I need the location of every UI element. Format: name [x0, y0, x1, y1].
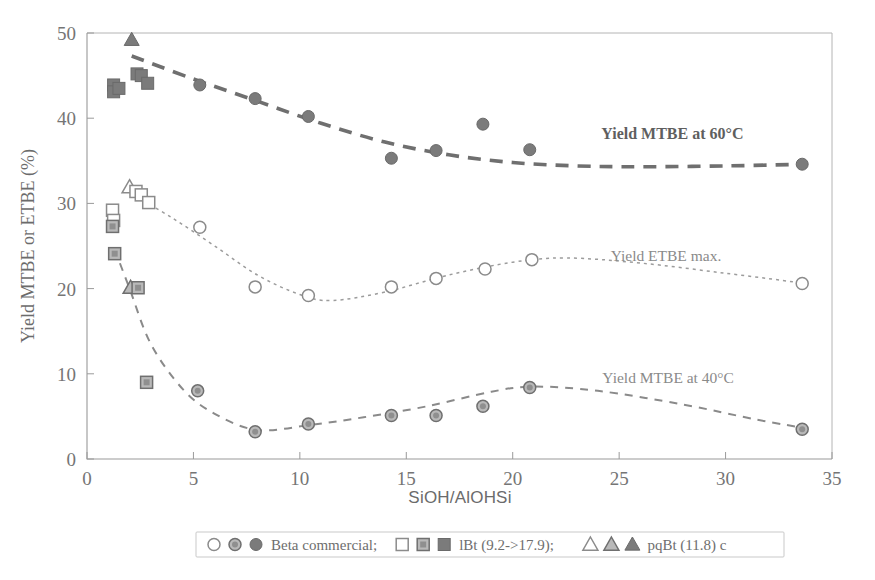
point-etbe-max	[194, 221, 206, 233]
legend-entry-pqbt: pqBt (11.8) c	[647, 537, 726, 554]
point-mtbe-40	[477, 400, 489, 412]
point-etbe-max	[249, 281, 261, 293]
point-mtbe-60	[194, 79, 206, 91]
point-mtbe-40	[107, 220, 119, 232]
point-mtbe-60	[385, 152, 397, 164]
y-tick-label: 0	[67, 449, 77, 470]
point-mtbe-60	[430, 145, 442, 157]
y-tick-label: 30	[57, 193, 76, 214]
point-mtbe-40	[109, 248, 121, 260]
legend-marker-square-open	[396, 539, 408, 551]
chart-svg: 0510152025303501020304050 Yield MTBE at …	[0, 0, 875, 580]
point-mtbe-40	[385, 410, 397, 422]
x-tick-label: 30	[716, 468, 735, 489]
chart-legend: Beta commercial;lBt (9.2->17.9);pqBt (11…	[196, 532, 784, 557]
trend-mtbe-40	[115, 249, 807, 430]
x-tick-label: 25	[610, 468, 629, 489]
point-mtbe-40	[192, 385, 204, 397]
legend-marker-circle-open	[208, 539, 220, 551]
y-tick-label: 10	[57, 364, 76, 385]
x-tick-label: 15	[397, 468, 416, 489]
legend-marker-square-filled	[438, 539, 450, 551]
point-etbe-max	[302, 289, 314, 301]
point-etbe-max	[479, 263, 491, 275]
x-tick-label: 10	[290, 468, 309, 489]
annot-mtbe-40: Yield MTBE at 40°C	[602, 369, 734, 386]
x-tick-label: 0	[82, 468, 92, 489]
annot-mtbe-60: Yield MTBE at 60°C	[601, 125, 743, 142]
series-annotations: Yield MTBE at 60°CYield ETBE max.Yield M…	[601, 125, 743, 387]
point-mtbe-40	[141, 376, 153, 388]
point-mtbe-40	[796, 423, 808, 435]
point-mtbe-60	[302, 110, 314, 122]
point-mtbe-40	[132, 282, 144, 294]
point-mtbe-60	[124, 32, 139, 45]
point-etbe-max	[796, 277, 808, 289]
point-etbe-max	[143, 197, 155, 209]
legend-marker-circle-filled	[250, 539, 262, 551]
point-mtbe-60	[477, 118, 489, 130]
x-tick-label: 35	[823, 468, 842, 489]
point-etbe-max	[430, 272, 442, 284]
x-tick-label: 20	[503, 468, 522, 489]
point-mtbe-60	[113, 82, 125, 94]
point-etbe-max	[526, 254, 538, 266]
legend-marker-square-half	[417, 539, 429, 551]
legend-entry-lbt: lBt (9.2->17.9);	[459, 537, 554, 554]
y-tick-label: 50	[57, 23, 76, 44]
chart-figure: 0510152025303501020304050 Yield MTBE at …	[0, 0, 875, 580]
point-mtbe-40	[302, 418, 314, 430]
y-axis-label: Yield MTBE or ETBE (%)	[18, 149, 39, 343]
annot-etbe-max: Yield ETBE max.	[611, 247, 722, 264]
point-mtbe-60	[142, 77, 154, 89]
point-mtbe-60	[796, 158, 808, 170]
y-tick-label: 20	[57, 279, 76, 300]
legend-entry-beta: Beta commercial;	[271, 537, 377, 553]
point-mtbe-60	[249, 93, 261, 105]
point-mtbe-60	[524, 144, 536, 156]
point-mtbe-40	[430, 410, 442, 422]
point-mtbe-40	[524, 381, 536, 393]
legend-marker-circle-half	[229, 539, 241, 551]
point-mtbe-40	[249, 426, 261, 438]
point-etbe-max	[385, 281, 397, 293]
x-axis-label: SiOH/AlOHSi	[408, 488, 511, 507]
x-tick-label: 5	[189, 468, 199, 489]
axis-tick-labels: 0510152025303501020304050	[57, 23, 842, 489]
trend-mtbe-60	[132, 56, 807, 167]
y-tick-label: 40	[57, 108, 76, 129]
